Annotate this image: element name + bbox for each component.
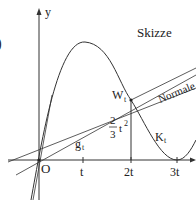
point-label-w: W bbox=[112, 88, 124, 102]
tick-label-3t: 3t bbox=[170, 165, 180, 179]
point-w-t bbox=[129, 98, 132, 101]
point-origin bbox=[37, 158, 40, 161]
height-fraction-numerator: 2 bbox=[110, 114, 116, 126]
figure-title: Skizze bbox=[137, 25, 172, 40]
tick-label-t: t bbox=[80, 165, 84, 179]
height-expr-exponent: 2 bbox=[124, 119, 128, 128]
left-margin-glyph: ) bbox=[0, 36, 2, 52]
line-label-g: g bbox=[75, 137, 81, 151]
y-axis-label: y bbox=[45, 5, 51, 19]
line-label-g-sub: t bbox=[82, 143, 85, 152]
height-expr: t bbox=[119, 122, 122, 134]
y-axis-arrow-icon bbox=[37, 8, 42, 15]
normal-label: Normale bbox=[156, 79, 196, 105]
curve-label-k: K bbox=[155, 130, 164, 144]
x-axis-arrow-icon bbox=[190, 158, 196, 163]
curve-label-k-sub: t bbox=[164, 136, 167, 145]
tick-label-2t: 2t bbox=[124, 165, 134, 179]
point-label-w-sub: t bbox=[124, 95, 127, 104]
origin-label: O bbox=[41, 161, 50, 176]
function-sketch: ) y t 2t 3t O Skizze W t g t K t Normale… bbox=[0, 0, 196, 203]
height-fraction-denominator: 3 bbox=[110, 128, 116, 140]
steep-line bbox=[33, 95, 52, 200]
